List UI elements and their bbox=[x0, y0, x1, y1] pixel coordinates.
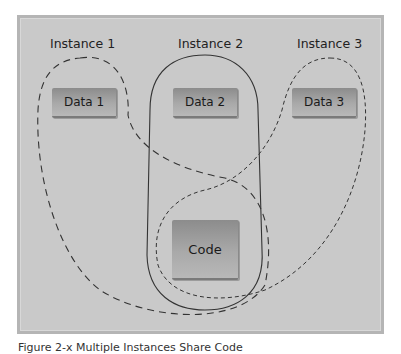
figure-caption: Figure 2-x Multiple Instances Share Code bbox=[18, 341, 243, 354]
data-3-box: Data 3 bbox=[292, 88, 357, 118]
data-1-box: Data 1 bbox=[52, 88, 117, 118]
data-2-box: Data 2 bbox=[173, 88, 238, 118]
code-box: Code bbox=[172, 220, 239, 280]
